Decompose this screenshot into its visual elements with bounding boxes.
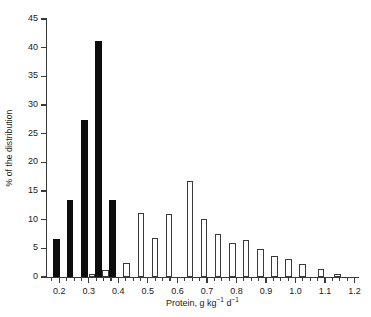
y-axis-tick-label: 15 bbox=[0, 186, 38, 195]
x-axis-minor-tick bbox=[96, 278, 97, 281]
histogram-bar bbox=[81, 120, 87, 277]
x-axis-tick bbox=[206, 278, 207, 283]
x-axis-tick bbox=[88, 278, 89, 283]
x-axis-minor-tick bbox=[162, 278, 163, 281]
x-axis-label-prefix: Protein, g kg bbox=[166, 298, 217, 308]
x-axis-minor-tick bbox=[317, 278, 318, 281]
x-axis-tick bbox=[324, 278, 325, 283]
x-axis-minor-tick bbox=[258, 278, 259, 281]
y-axis-tick-label: 45 bbox=[0, 14, 38, 23]
x-axis-minor-tick bbox=[74, 278, 75, 281]
x-axis-minor-tick bbox=[51, 278, 52, 281]
y-axis-tick-label: 25 bbox=[0, 129, 38, 138]
x-axis-tick bbox=[147, 278, 148, 283]
x-axis-minor-tick bbox=[133, 278, 134, 281]
histogram-bar bbox=[285, 259, 291, 277]
histogram-bar bbox=[109, 200, 115, 277]
plot-area bbox=[46, 19, 359, 277]
x-axis-minor-tick bbox=[347, 278, 348, 281]
histogram-bar bbox=[257, 249, 263, 277]
histogram-bar bbox=[215, 234, 221, 277]
histogram-bar bbox=[334, 274, 340, 277]
x-axis-minor-tick bbox=[332, 278, 333, 281]
y-axis-tick-label: 20 bbox=[0, 157, 38, 166]
x-axis-minor-tick bbox=[288, 278, 289, 281]
x-axis-minor-tick bbox=[229, 278, 230, 281]
histogram-bar bbox=[95, 41, 101, 277]
histogram-bar bbox=[102, 270, 108, 277]
histogram-bar bbox=[53, 239, 59, 277]
x-axis-minor-tick bbox=[140, 278, 141, 281]
x-axis-minor-tick bbox=[280, 278, 281, 281]
histogram-bar bbox=[299, 264, 305, 277]
y-axis-label: % of the distribution bbox=[2, 19, 16, 277]
x-axis-label-exponent-1: −1 bbox=[216, 296, 224, 303]
x-axis-tick bbox=[118, 278, 119, 283]
x-axis-tick bbox=[295, 278, 296, 283]
x-axis-tick-label: 1.2 bbox=[338, 286, 371, 296]
histogram-bar bbox=[67, 200, 73, 277]
x-axis-minor-tick bbox=[192, 278, 193, 281]
histogram-bar bbox=[89, 274, 95, 277]
x-axis-minor-tick bbox=[81, 278, 82, 281]
histogram-bar bbox=[318, 269, 324, 277]
y-axis-tick-label: 5 bbox=[0, 243, 38, 252]
x-axis-minor-tick bbox=[125, 278, 126, 281]
x-axis-label-middle: d bbox=[224, 298, 232, 308]
x-axis-label-exponent-2: −1 bbox=[232, 296, 240, 303]
x-axis-minor-tick bbox=[199, 278, 200, 281]
x-axis-minor-tick bbox=[339, 278, 340, 281]
y-axis-tick-label: 35 bbox=[0, 71, 38, 80]
y-axis-tick-label: 0 bbox=[0, 272, 38, 281]
y-axis-tick-label: 30 bbox=[0, 100, 38, 109]
x-axis-minor-tick bbox=[66, 278, 67, 281]
x-axis-minor-tick bbox=[221, 278, 222, 281]
x-axis-minor-tick bbox=[155, 278, 156, 281]
x-axis-minor-tick bbox=[273, 278, 274, 281]
x-axis-minor-tick bbox=[302, 278, 303, 281]
x-axis-minor-tick bbox=[184, 278, 185, 281]
x-axis-minor-tick bbox=[310, 278, 311, 281]
x-axis-minor-tick bbox=[103, 278, 104, 281]
histogram-bar bbox=[243, 240, 249, 277]
x-axis-minor-tick bbox=[110, 278, 111, 281]
histogram-bar bbox=[187, 181, 193, 277]
y-axis-tick-label: 10 bbox=[0, 215, 38, 224]
x-axis-minor-tick bbox=[243, 278, 244, 281]
x-axis-tick bbox=[177, 278, 178, 283]
histogram-figure: % of the distribution 051015202530354045… bbox=[0, 0, 371, 317]
x-axis-tick bbox=[354, 278, 355, 283]
x-axis-tick bbox=[59, 278, 60, 283]
x-axis-minor-tick bbox=[214, 278, 215, 281]
histogram-bar bbox=[201, 219, 207, 277]
histogram-bar bbox=[271, 256, 277, 277]
histogram-bar bbox=[166, 214, 172, 277]
y-axis-tick-label: 40 bbox=[0, 43, 38, 52]
x-axis-tick bbox=[236, 278, 237, 283]
x-axis-minor-tick bbox=[251, 278, 252, 281]
histogram-bar bbox=[229, 243, 235, 277]
x-axis-tick bbox=[265, 278, 266, 283]
histogram-bar bbox=[152, 238, 158, 277]
x-axis-minor-tick bbox=[169, 278, 170, 281]
histogram-bar bbox=[138, 213, 144, 277]
histogram-bar bbox=[123, 263, 129, 277]
x-axis-label: Protein, g kg−1 d−1 bbox=[46, 298, 359, 309]
x-axis-line bbox=[46, 277, 359, 278]
